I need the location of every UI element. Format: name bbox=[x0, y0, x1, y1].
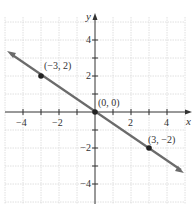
svg-text:−4: −4 bbox=[16, 117, 27, 128]
svg-text:4: 4 bbox=[164, 117, 169, 128]
point-label-3-neg2: (3, −2) bbox=[148, 134, 175, 146]
point-label-neg3-2: (−3, 2) bbox=[44, 60, 71, 72]
x-axis-label: x bbox=[185, 115, 191, 127]
svg-text:−4: −4 bbox=[80, 178, 91, 189]
point-3-neg2 bbox=[146, 145, 152, 151]
point-origin bbox=[92, 109, 98, 115]
y-axis-label: y bbox=[85, 10, 91, 22]
svg-text:−2: −2 bbox=[52, 117, 63, 128]
svg-text:−2: −2 bbox=[80, 142, 91, 153]
x-tick-labels: −4 −2 2 4 bbox=[16, 117, 169, 128]
coordinate-plane: y x −4 −2 2 4 4 2 −2 −4 (−3, 2) (0, 0) (… bbox=[0, 0, 194, 206]
svg-text:2: 2 bbox=[86, 70, 91, 81]
point-label-origin: (0, 0) bbox=[98, 97, 120, 109]
x-axis-arrow-icon bbox=[185, 110, 192, 115]
svg-text:4: 4 bbox=[86, 34, 91, 45]
svg-text:2: 2 bbox=[128, 117, 133, 128]
point-neg3-2 bbox=[38, 73, 44, 79]
y-axis-arrow-icon bbox=[93, 13, 98, 20]
